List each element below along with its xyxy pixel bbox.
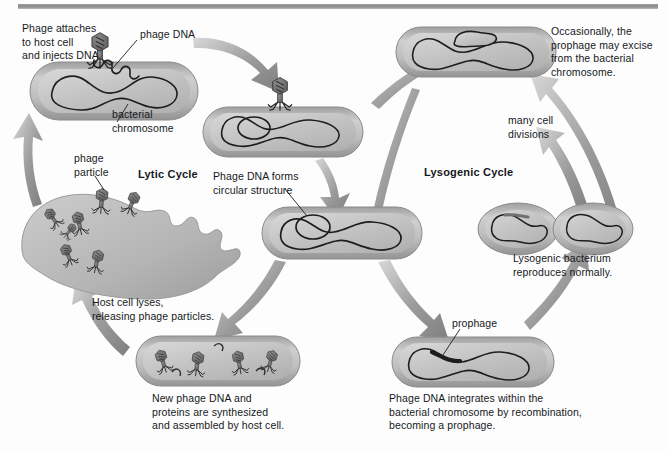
phage-life-cycle-diagram: Phage attaches to host cell and injects … <box>0 0 667 450</box>
prophage-label: prophage <box>452 317 497 331</box>
cell-lysed <box>22 176 240 299</box>
cells-dividing <box>478 203 633 255</box>
cell-circularizing <box>203 77 363 157</box>
lysogenic-cycle-label: Lysogenic Cycle <box>424 166 513 180</box>
phage-attaches-caption: Phage attaches to host cell and injects … <box>22 22 102 63</box>
cell-prophage <box>392 329 554 387</box>
many-cell-divisions-label: many cell divisions <box>508 114 553 141</box>
lytic-cycle-label: Lytic Cycle <box>138 168 198 182</box>
bacterial-chromosome-label: bacterial chromosome <box>112 108 174 135</box>
cell-assembly <box>136 336 300 386</box>
phage-dna-integrates-caption: Phage DNA integrates within the bacteria… <box>389 392 582 433</box>
occasionally-excise-caption: Occasionally, the prophage may excise fr… <box>551 25 653 79</box>
phage-particle-label: phage particle <box>74 152 109 179</box>
excised-phage-dna <box>454 31 496 46</box>
cell-excising <box>396 27 556 77</box>
arrow-lysis-to-attach <box>13 113 43 207</box>
circular-structure-caption: Phage DNA forms circular structure <box>213 170 299 197</box>
arrow-center-to-assembly <box>214 260 286 340</box>
lysogenic-bacterium-caption: Lysogenic bacterium reproduces normally. <box>513 252 612 279</box>
phage-dna-label: phage DNA <box>140 28 195 42</box>
arrow-attach-to-circularize <box>193 38 279 92</box>
host-cell-lyses-caption: Host cell lyses, releasing phage particl… <box>92 296 214 323</box>
new-phage-dna-caption: New phage DNA and proteins are synthesiz… <box>152 392 284 433</box>
arrow-center-to-integration <box>378 260 449 341</box>
